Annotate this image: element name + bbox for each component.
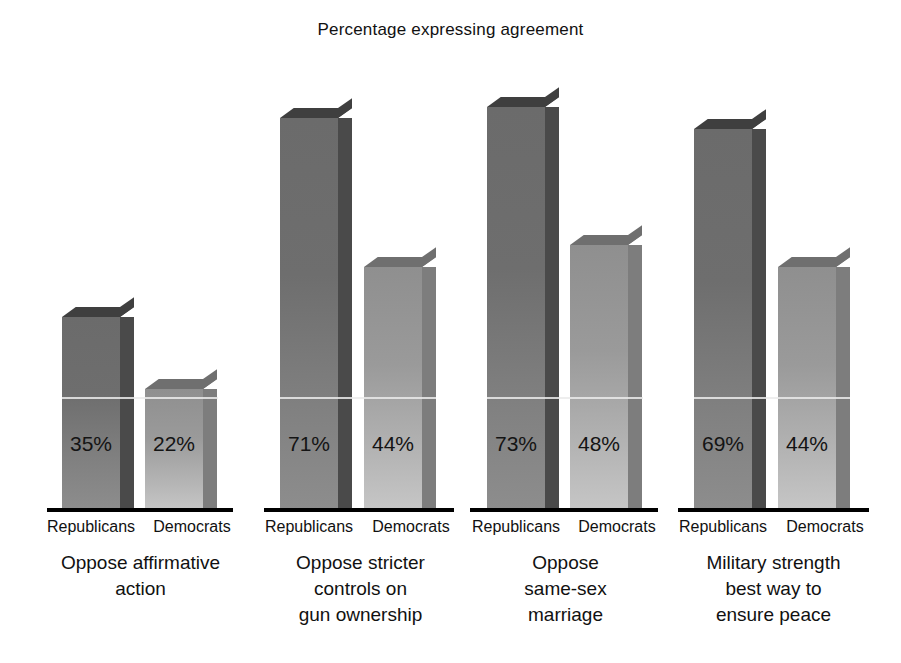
caption-line-3: ensure peace	[651, 602, 896, 628]
bar-front-face	[570, 245, 628, 510]
axis-rule-group-1	[47, 508, 233, 512]
caption-line-2: best way to	[651, 576, 896, 602]
bar-side-face	[203, 389, 217, 510]
bar-side-top-face	[203, 369, 217, 389]
bar-top-face	[145, 379, 203, 389]
bar-side-face	[752, 129, 766, 510]
bar-side-face	[338, 118, 352, 510]
party-label-group4-democrats: Democrats	[766, 518, 884, 536]
party-label-group1-democrats: Democrats	[133, 518, 251, 536]
bar-side-top-face	[628, 225, 642, 245]
bar-side-top-face	[120, 297, 134, 317]
value-label-group1-democrats: 22%	[145, 432, 203, 456]
value-label-group4-republicans: 69%	[694, 432, 752, 456]
bar-side-top-face	[836, 247, 850, 267]
plot-area: 35% 22% Republicans Democrats Oppose aff…	[0, 0, 901, 663]
value-label-group3-republicans: 73%	[487, 432, 545, 456]
value-label-group3-democrats: 48%	[570, 432, 628, 456]
bar-side-top-face	[545, 87, 559, 107]
bar-top-face	[280, 108, 338, 118]
bar-group1-republicans[interactable]	[62, 317, 120, 510]
axis-rule-group-2	[264, 508, 454, 512]
value-label-group2-republicans: 71%	[280, 432, 338, 456]
caption-line-2: action	[18, 576, 263, 602]
bar-side-face	[422, 267, 436, 510]
bar-group4-democrats[interactable]	[778, 267, 836, 510]
bar-side-top-face	[338, 98, 352, 118]
bar-side-top-face	[422, 247, 436, 267]
party-label-group2-republicans: Republicans	[250, 518, 368, 536]
axis-rule-group-4	[678, 508, 869, 512]
bar-top-face	[570, 235, 628, 245]
bar-side-face	[120, 317, 134, 510]
axis-rule-group-3	[470, 508, 658, 512]
category-caption-group-4: Military strength best way to ensure pea…	[651, 550, 896, 628]
bar-top-face	[778, 257, 836, 267]
bar-top-face	[62, 307, 120, 317]
party-label-group2-democrats: Democrats	[352, 518, 470, 536]
bar-top-face	[694, 119, 752, 129]
category-caption-group-1: Oppose affirmative action	[18, 550, 263, 602]
bar-side-face	[628, 245, 642, 510]
caption-line-1: Oppose affirmative	[18, 550, 263, 576]
value-label-group4-democrats: 44%	[778, 432, 836, 456]
bar-top-face	[364, 257, 422, 267]
value-label-group2-democrats: 44%	[364, 432, 422, 456]
bar-side-top-face	[752, 109, 766, 129]
party-label-group4-republicans: Republicans	[664, 518, 782, 536]
bar-group2-democrats[interactable]	[364, 267, 422, 510]
bar-side-face	[836, 267, 850, 510]
caption-line-1: Military strength	[651, 550, 896, 576]
bar-chart: Percentage expressing agreement	[0, 0, 901, 663]
bar-side-face	[545, 107, 559, 510]
value-label-group1-republicans: 35%	[62, 432, 120, 456]
bar-front-face	[62, 317, 120, 510]
bar-group3-democrats[interactable]	[570, 245, 628, 510]
bar-front-face	[778, 267, 836, 510]
party-label-group3-democrats: Democrats	[558, 518, 676, 536]
bar-top-face	[487, 97, 545, 107]
bar-front-face	[364, 267, 422, 510]
